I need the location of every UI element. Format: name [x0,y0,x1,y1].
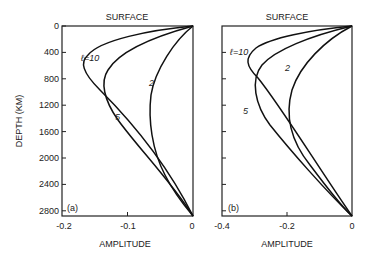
curve-b-l5 [255,26,352,216]
figure: SURFACE SURFACE 0 400 800 1200 1600 2000… [0,0,371,261]
curve-b-l2 [289,26,352,216]
ytick-0: 0 [54,21,59,31]
panel-label-b: (b) [228,203,239,213]
surface-label-b: SURFACE [266,12,309,22]
xtick-b-1: -0.2 [279,221,295,231]
xtick-a-1: -0.1 [120,221,136,231]
ytick-2000: 2000 [39,153,59,163]
x-tick-labels-a: -0.2 -0.1 0 [56,221,194,231]
xtick-a-2: 0 [189,221,194,231]
ytick-1600: 1600 [39,127,59,137]
curve-a-l2 [150,26,193,216]
y-tick-labels: 0 400 800 1200 1600 2000 2400 2800 [39,21,59,216]
x-tick-labels-b: -0.4 -0.2 0 [214,221,354,231]
x-axis-label-a: AMPLITUDE [99,239,151,249]
y-axis-label: DEPTH (KM) [14,95,24,148]
curve-label-a-5: 5 [115,112,121,122]
ytick-800: 800 [44,74,59,84]
xtick-b-2: 0 [349,221,354,231]
curve-label-a-10: ℓ=10 [80,53,99,63]
xtick-b-0: -0.4 [214,221,230,231]
xtick-a-0: -0.2 [56,221,72,231]
ytick-400: 400 [44,47,59,57]
ytick-2400: 2400 [39,179,59,189]
curve-a-l10 [84,26,193,216]
curve-label-a-2: 2 [148,78,154,88]
x-axis-label-b: AMPLITUDE [261,239,313,249]
curve-label-b-5: 5 [243,106,249,116]
ytick-2800: 2800 [39,206,59,216]
surface-label-a: SURFACE [106,12,149,22]
panel-label-a: (a) [67,203,78,213]
ytick-1200: 1200 [39,100,59,110]
curve-b-l10 [248,26,352,216]
curve-label-b-2: 2 [284,63,290,73]
curve-label-b-10: ℓ=10 [229,47,248,57]
